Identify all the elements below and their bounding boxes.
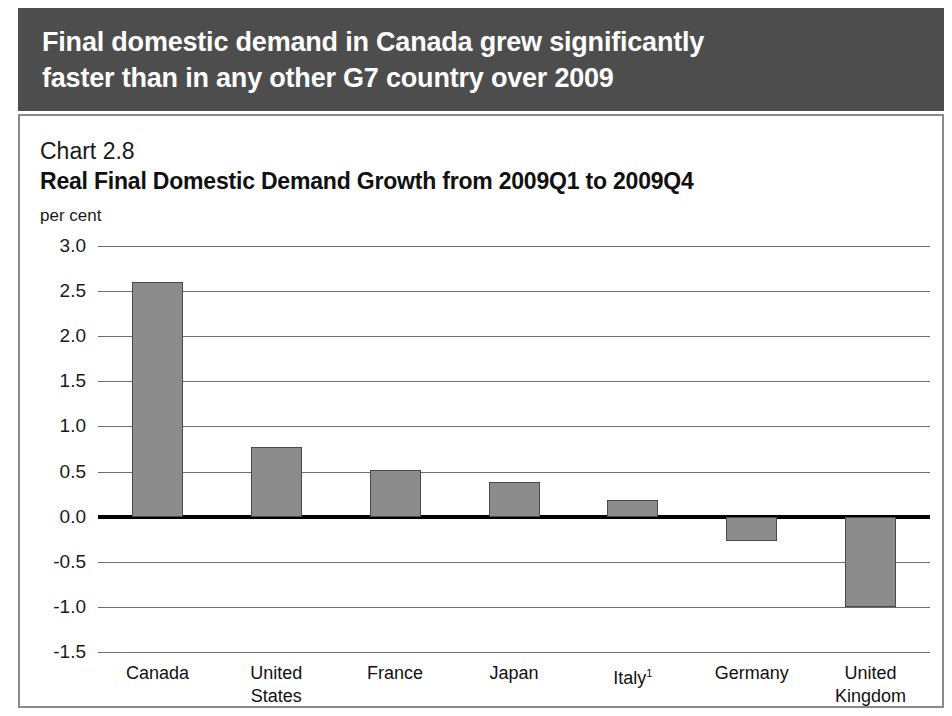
y-axis-tick-label: 0.5 bbox=[26, 461, 86, 483]
gridline bbox=[98, 472, 930, 473]
gridline bbox=[98, 426, 930, 427]
x-axis-tick-label: United Kingdom bbox=[811, 662, 930, 708]
x-axis-tick-label: Italy1 bbox=[573, 662, 692, 690]
gridline bbox=[98, 381, 930, 382]
y-axis-tick-label: -1.0 bbox=[26, 596, 86, 618]
gridline bbox=[98, 607, 930, 608]
y-axis-tick-label: -1.5 bbox=[26, 641, 86, 663]
gridline bbox=[98, 562, 930, 563]
x-axis-tick-label: Germany bbox=[692, 662, 811, 685]
footnote-marker: 1 bbox=[646, 667, 652, 679]
x-axis-tick-label: Canada bbox=[98, 662, 217, 685]
banner-title: Final domestic demand in Canada grew sig… bbox=[42, 24, 920, 96]
chart-panel: Chart 2.8 Real Final Domestic Demand Gro… bbox=[18, 114, 944, 708]
header-banner: Final domestic demand in Canada grew sig… bbox=[18, 8, 944, 111]
bar bbox=[607, 500, 658, 517]
y-axis-tick-label: 1.5 bbox=[26, 370, 86, 392]
bar bbox=[251, 447, 302, 516]
y-axis-tick-label: 3.0 bbox=[26, 235, 86, 257]
y-axis-tick-label: 0.0 bbox=[26, 506, 86, 528]
x-axis-tick-label: United States bbox=[217, 662, 336, 708]
x-axis-tick-label: France bbox=[336, 662, 455, 685]
gridline bbox=[98, 336, 930, 337]
y-axis-tick-label: 2.0 bbox=[26, 325, 86, 347]
y-axis-tick-label: 2.5 bbox=[26, 280, 86, 302]
bar bbox=[845, 517, 896, 607]
bar bbox=[370, 470, 421, 517]
bar bbox=[489, 482, 540, 516]
plot-area: 3.02.52.01.51.00.50.0-0.5-1.0-1.5 Canada… bbox=[20, 116, 942, 706]
y-axis-tick-label: -0.5 bbox=[26, 551, 86, 573]
chart-page: Final domestic demand in Canada grew sig… bbox=[0, 0, 952, 716]
bar bbox=[726, 517, 777, 541]
gridline bbox=[98, 291, 930, 292]
gridline bbox=[98, 246, 930, 247]
bar bbox=[132, 282, 183, 517]
x-axis-tick-label: Japan bbox=[455, 662, 574, 685]
y-axis-tick-label: 1.0 bbox=[26, 415, 86, 437]
gridline bbox=[98, 652, 930, 653]
